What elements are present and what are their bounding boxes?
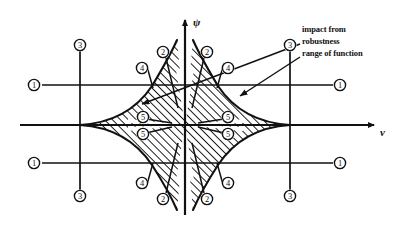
marker-number: 5 (141, 113, 145, 122)
marker-number: 3 (288, 192, 292, 201)
marker-2-bottom-left: 2 (156, 192, 169, 205)
marker-4-bottom-right: 4 (221, 176, 234, 189)
marker-5-right-upper: 5 (221, 110, 234, 123)
marker-3-top-left: 3 (73, 38, 86, 51)
marker-number: 1 (338, 81, 342, 90)
callout-robustness: robustness (302, 36, 340, 46)
marker-number: 2 (161, 48, 165, 57)
marker-2-bottom-right: 2 (200, 192, 213, 205)
marker-1-bottom-right: 1 (333, 156, 346, 169)
marker-4-bottom-left: 4 (135, 176, 148, 189)
marker-2-top-right: 2 (200, 45, 213, 58)
marker-number: 1 (32, 159, 36, 168)
marker-number: 1 (32, 81, 36, 90)
marker-number: 3 (288, 41, 292, 50)
marker-number: 5 (226, 130, 230, 139)
x-axis-label: ν (380, 126, 385, 138)
marker-1-bottom-left: 1 (27, 156, 40, 169)
marker-number: 2 (205, 195, 209, 204)
figure-root: 11113333222244445555 ψ ν impact from rob… (0, 0, 404, 231)
marker-1-top-left: 1 (27, 78, 40, 91)
y-axis-label: ψ (193, 16, 200, 28)
marker-number: 3 (78, 192, 82, 201)
marker-number: 5 (141, 130, 145, 139)
marker-3-bottom-right: 3 (283, 189, 296, 202)
marker-number: 2 (161, 195, 165, 204)
marker-4-top-left: 4 (135, 61, 148, 74)
marker-4-top-right: 4 (221, 61, 234, 74)
marker-number: 1 (338, 159, 342, 168)
marker-3-bottom-left: 3 (73, 189, 86, 202)
marker-1-top-right: 1 (333, 78, 346, 91)
marker-2-top-left: 2 (156, 45, 169, 58)
marker-5-right-lower: 5 (221, 127, 234, 140)
marker-number: 2 (205, 48, 209, 57)
marker-3-top-right: 3 (283, 38, 296, 51)
diagram-canvas: 11113333222244445555 (0, 0, 404, 231)
marker-number: 5 (226, 113, 230, 122)
callout-impact-from: impact from (302, 24, 346, 34)
marker-5-left-lower: 5 (136, 127, 149, 140)
callout-range-of-function: range of function (302, 48, 363, 58)
marker-5-left-upper: 5 (136, 110, 149, 123)
marker-number: 3 (78, 41, 82, 50)
